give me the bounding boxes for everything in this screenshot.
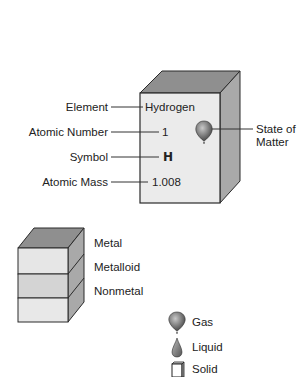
gas-legend-icon (169, 312, 185, 334)
classification-label-metalloid: Metalloid (94, 260, 140, 274)
label-state-of-matter-line2: Matter (256, 135, 289, 149)
stack-row-nonmetal (18, 298, 68, 322)
label-atomic-mass: Atomic Mass (42, 175, 108, 189)
solid-legend-icon (172, 362, 184, 377)
atomic-mass-value: 1.008 (152, 175, 181, 189)
label-atomic-number: Atomic Number (29, 125, 108, 139)
stack-row-metal (18, 248, 68, 274)
stack-row-metalloid (18, 274, 68, 298)
label-element: Element (66, 100, 108, 114)
label-symbol: Symbol (70, 150, 108, 164)
symbol-value: H (163, 150, 173, 164)
label-state-of-matter-line1: State of (256, 122, 296, 136)
state-label-solid: Solid (192, 362, 218, 376)
state-label-liquid: Liquid (192, 340, 223, 354)
element-name-value: Hydrogen (145, 100, 195, 114)
atomic-number-value: 1 (162, 125, 168, 139)
classification-label-metal: Metal (94, 236, 122, 250)
state-label-gas: Gas (192, 315, 213, 329)
liquid-legend-icon (172, 338, 182, 357)
element-box-side-face (220, 71, 240, 203)
classification-label-nonmetal: Nonmetal (94, 284, 143, 298)
